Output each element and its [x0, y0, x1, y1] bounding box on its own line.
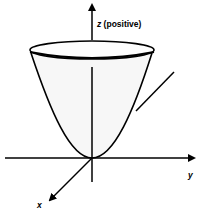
paraboloid-rim	[30, 41, 154, 59]
x-axis-label: x	[36, 200, 43, 210]
x-axis	[50, 158, 92, 200]
paraboloid-diagram: z (positive) y x	[0, 0, 198, 210]
y-axis-label: y	[187, 170, 194, 180]
z-axis-label: z (positive)	[96, 19, 142, 29]
